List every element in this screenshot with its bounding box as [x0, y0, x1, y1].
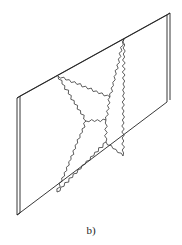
crack-lines	[57, 39, 125, 192]
crack-H-C	[57, 142, 106, 192]
slab-outline	[17, 13, 170, 215]
slab-front-face	[17, 15, 167, 215]
crack-B-D	[122, 39, 125, 156]
crack-E-F	[86, 119, 106, 122]
crack-H-D	[106, 142, 123, 156]
figure-caption: b)	[0, 224, 182, 236]
crack-F-H	[105, 120, 108, 142]
crack-A-G	[58, 76, 110, 97]
crack-G-F	[106, 97, 111, 120]
slab-crack-diagram	[0, 0, 182, 245]
crack-E-C	[57, 121, 86, 192]
crack-B-G	[110, 39, 124, 97]
slab-top-thickness	[17, 13, 170, 98]
